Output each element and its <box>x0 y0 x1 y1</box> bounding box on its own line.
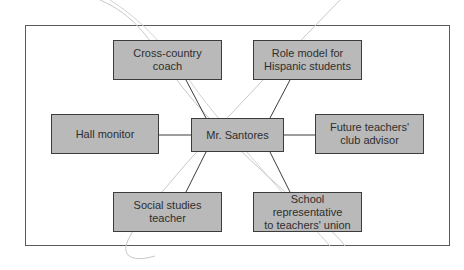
node-future-teachers-advisor: Future teachers' club advisor <box>315 114 424 154</box>
node-role-model: Role model for Hispanic students <box>253 40 362 80</box>
node-cross-country-coach: Cross-country coach <box>113 40 222 80</box>
node-label: Role model for Hispanic students <box>264 47 351 73</box>
node-school-representative: School representative to teachers' union <box>253 192 362 232</box>
node-hall-monitor: Hall monitor <box>51 114 159 154</box>
node-social-studies-teacher: Social studies teacher <box>113 192 222 232</box>
node-label: Cross-country coach <box>133 47 201 73</box>
node-center-mr-santores: Mr. Santores <box>191 118 284 152</box>
node-label: Future teachers' club advisor <box>330 121 409 147</box>
node-label: Social studies teacher <box>134 199 202 225</box>
node-label: Hall monitor <box>76 128 135 141</box>
node-label: School representative to teachers' union <box>258 193 357 232</box>
center-label: Mr. Santores <box>206 129 268 142</box>
